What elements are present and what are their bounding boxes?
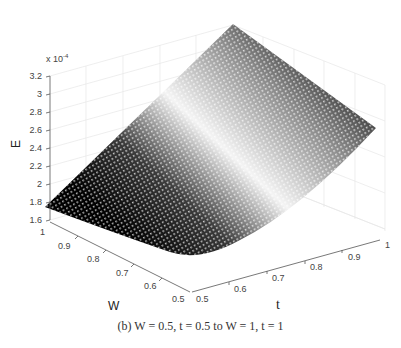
z-tick: 2.6 [29,125,42,135]
w-tick: 0.5 [172,294,185,304]
w-axis-label: W [108,299,120,313]
z-tick: 3 [37,89,42,99]
z-tick: 1.8 [29,197,42,207]
t-tick: 0.9 [348,252,361,262]
w-tick: 0.8 [87,254,100,264]
t-axis-label: t [276,297,280,312]
z-tick: 2.4 [29,143,42,153]
t-tick: 0.6 [234,284,247,294]
z-multiplier: x 10-4 [46,53,69,64]
z-tick: 2.8 [29,107,42,117]
figure-caption: (b) W = 0.5, t = 0.5 to W = 1, t = 1 [0,319,401,334]
z-axis [46,76,50,221]
z-tick-labels: 3.2 3 2.8 2.6 2.4 2.2 2 1.8 1.6 [29,71,42,225]
z-tick: 2 [37,179,42,189]
t-tick: 1 [385,240,390,250]
w-tick: 1 [40,227,45,237]
z-tick: 3.2 [29,71,42,81]
t-tick: 0.8 [310,262,323,272]
z-tick: 2.2 [29,161,42,171]
w-tick: 0.7 [116,268,129,278]
t-tick: 0.7 [272,273,285,283]
w-tick: 0.9 [58,241,71,251]
z-axis-label: E [9,140,23,148]
z-tick: 1.6 [29,215,42,225]
surface-plot: 3.2 3 2.8 2.6 2.4 2.2 2 1.8 1.6 x 10-4 E… [0,0,401,348]
t-tick: 0.5 [196,294,209,304]
t-tick-labels: 0.5 0.6 0.7 0.8 0.9 1 [196,240,390,304]
w-tick: 0.6 [144,281,157,291]
